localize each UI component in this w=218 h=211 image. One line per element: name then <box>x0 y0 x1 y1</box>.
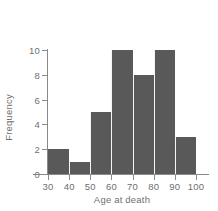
y-axis-tick-mark <box>42 124 47 125</box>
y-axis-tick-label: 8 <box>0 69 40 80</box>
x-axis-tick-mark <box>111 175 112 180</box>
x-axis-title: Age at death <box>48 194 196 205</box>
y-axis-tick-mark <box>42 100 47 101</box>
x-axis-tick-mark <box>133 175 134 180</box>
x-axis-tick-mark <box>69 175 70 180</box>
x-axis-tick-mark <box>196 175 197 180</box>
y-axis-tick-label: 10 <box>0 45 40 56</box>
histogram-bar <box>175 137 196 174</box>
histogram-bar <box>48 149 69 174</box>
histogram-bar <box>90 112 111 174</box>
histogram-bar <box>69 162 90 174</box>
histogram-bar <box>154 50 175 174</box>
x-axis-line <box>33 174 209 175</box>
y-axis-tick-label: 0 <box>0 169 40 180</box>
x-axis-tick-mark <box>90 175 91 180</box>
histogram-chart: 0246810 30405060708090100 Age at death F… <box>0 0 218 211</box>
y-axis-title: Frequency <box>3 88 14 148</box>
histogram-bar <box>133 75 154 174</box>
x-axis-tick-label: 100 <box>183 181 209 192</box>
y-axis-tick-mark <box>42 75 47 76</box>
y-axis-tick-mark <box>42 149 47 150</box>
y-axis-tick-mark <box>42 174 47 175</box>
y-axis-tick-mark <box>42 50 47 51</box>
x-axis-tick-mark <box>154 175 155 180</box>
plot-area <box>48 50 196 174</box>
y-axis-line <box>47 49 48 175</box>
x-axis-tick-mark <box>48 175 49 180</box>
histogram-bar <box>111 50 132 174</box>
x-axis-tick-mark <box>175 175 176 180</box>
